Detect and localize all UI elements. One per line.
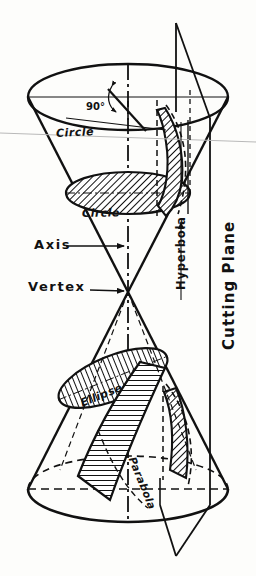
label-axis: Axis: [34, 238, 71, 251]
cutting-plane-bottom-left-edge: [160, 505, 176, 556]
conic-sections-figure: Circle Circle Ellipse Parabola 90° Axis …: [0, 0, 256, 576]
cutting-plane-bottom-edge: [176, 505, 210, 556]
hyperbola-section-lower: [163, 384, 191, 486]
label-hyperbola: Hyperbola: [176, 216, 188, 290]
right-angle-arc-arrow: [109, 86, 116, 112]
label-vertex: Vertex: [28, 280, 86, 293]
vertex-leader-arrow: [90, 290, 124, 291]
label-cutting-plane: Cutting Plane: [222, 221, 237, 350]
label-circle-top: Circle: [56, 126, 95, 139]
label-right-angle: 90°: [86, 102, 105, 112]
label-circle-mid: Circle: [82, 207, 120, 219]
cutting-plane-top-edge-right: [176, 23, 210, 118]
